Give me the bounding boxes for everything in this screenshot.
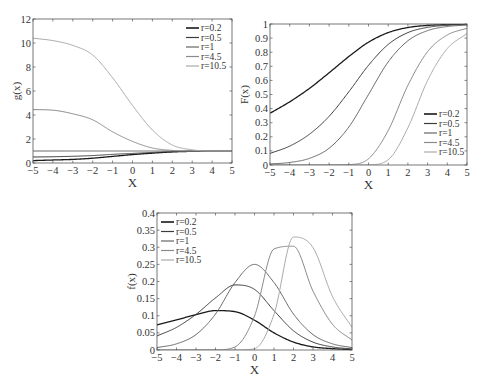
y-axis-label: g(x) <box>10 82 23 101</box>
y-tick-label: 0.4 <box>142 208 156 219</box>
legend-label: r=1 <box>176 236 190 246</box>
x-tick-label: 4 <box>209 165 215 176</box>
y-tick-label: 4 <box>26 110 32 121</box>
y-tick-label: 0.7 <box>255 61 268 72</box>
y-tick-label: 0.3 <box>255 117 268 128</box>
series-line-r-1 <box>157 264 352 347</box>
legend: r=0.2r=0.5r=1r=4.5r=10.5 <box>186 23 226 71</box>
y-tick-label: 0.4 <box>255 103 269 114</box>
x-tick-label: 1 <box>271 352 276 363</box>
legend-label: r=0.5 <box>201 33 222 43</box>
legend-label: r=10.5 <box>176 255 201 265</box>
legend-label: r=0.5 <box>176 227 197 237</box>
y-tick-label: 0.35 <box>137 225 155 236</box>
legend-label: r=10.5 <box>201 61 226 71</box>
series-line-r-10-5 <box>270 34 467 165</box>
legend-label: r=4.5 <box>201 52 222 62</box>
x-axis-label: X <box>128 175 138 190</box>
x-tick-label: 1 <box>150 165 155 176</box>
x-tick-label: −4 <box>47 165 59 176</box>
x-tick-label: −4 <box>284 167 296 178</box>
x-tick-label: 3 <box>190 165 195 176</box>
series-line-r-4-5 <box>270 28 467 165</box>
x-tick-label: −2 <box>87 165 98 176</box>
legend-label: r=4.5 <box>439 138 460 148</box>
legend-label: r=0.5 <box>439 119 460 129</box>
y-tick-label: 0.5 <box>255 89 268 100</box>
chart-F: −5−4−3−2−101234500.10.20.30.40.50.60.70.… <box>240 0 483 192</box>
legend-label: r=1 <box>439 128 453 138</box>
x-tick-label: −2 <box>210 352 221 363</box>
x-tick-label: −3 <box>304 167 315 178</box>
series-lines <box>270 24 467 165</box>
y-tick-label: 0.6 <box>255 75 268 86</box>
x-tick-label: 3 <box>310 352 315 363</box>
x-tick-label: −4 <box>171 352 183 363</box>
chart-F-svg: −5−4−3−2−101234500.10.20.30.40.50.60.70.… <box>240 0 483 192</box>
chart-f: −5−4−3−2−101234500.050.10.150.20.250.30.… <box>120 195 370 387</box>
y-tick-label: 10 <box>21 38 32 49</box>
x-tick-label: 5 <box>229 165 234 176</box>
y-axis-label: f(x) <box>125 273 138 290</box>
y-tick-label: 0.8 <box>255 47 268 58</box>
y-tick-label: 8 <box>26 62 31 73</box>
x-tick-label: 3 <box>425 167 430 178</box>
x-tick-label: −1 <box>229 352 240 363</box>
y-tick-label: 0.15 <box>137 293 155 304</box>
chart-g-svg: −5−4−3−2−1012345024681012Xg(x)r=0.2r=0.5… <box>0 0 240 192</box>
y-axis-label: F(x) <box>240 85 251 104</box>
x-tick-label: 2 <box>291 352 296 363</box>
legend-label: r=4.5 <box>176 246 197 256</box>
x-tick-label: −3 <box>190 352 201 363</box>
x-tick-label: −2 <box>324 167 335 178</box>
x-tick-label: 5 <box>464 167 469 178</box>
y-tick-label: 0 <box>26 158 31 169</box>
legend-label: r=0.2 <box>201 23 222 33</box>
y-tick-label: 0.25 <box>137 259 155 270</box>
x-axis-label: X <box>364 177 374 192</box>
series-line-r-1 <box>270 25 467 164</box>
x-axis-label: X <box>250 362 260 377</box>
x-tick-label: −1 <box>343 167 354 178</box>
y-tick-label: 0.1 <box>142 310 155 321</box>
y-tick-label: 0.3 <box>142 242 155 253</box>
chart-f-svg: −5−4−3−2−101234500.050.10.150.20.250.30.… <box>120 195 370 387</box>
legend-label: r=1 <box>201 42 215 52</box>
legend-label: r=0.2 <box>176 217 197 227</box>
x-tick-label: 4 <box>445 167 451 178</box>
x-tick-label: −3 <box>67 165 78 176</box>
legend: r=0.2r=0.5r=1r=4.5r=10.5 <box>161 217 201 265</box>
x-tick-label: 2 <box>405 167 410 178</box>
x-tick-label: 4 <box>330 352 336 363</box>
series-line-r-0-2 <box>270 24 467 113</box>
series-line-r-0-2 <box>33 151 232 161</box>
legend-label: r=10.5 <box>439 147 464 157</box>
legend-label: r=0.2 <box>439 109 460 119</box>
y-tick-label: 0.05 <box>137 327 155 338</box>
x-tick-label: 1 <box>386 167 391 178</box>
y-tick-label: 0 <box>150 345 155 356</box>
y-tick-label: 2 <box>26 134 31 145</box>
y-tick-label: 0 <box>263 160 268 171</box>
chart-g: −5−4−3−2−1012345024681012Xg(x)r=0.2r=0.5… <box>0 0 240 192</box>
y-tick-label: 1 <box>263 19 268 30</box>
y-tick-label: 0.2 <box>255 131 268 142</box>
x-tick-label: 5 <box>349 352 354 363</box>
series-line-r-0-5 <box>270 24 467 153</box>
series-line-r-4-5 <box>33 110 232 151</box>
y-tick-label: 12 <box>21 14 32 25</box>
y-tick-label: 0.9 <box>255 33 268 44</box>
y-tick-label: 0.2 <box>142 276 155 287</box>
x-tick-label: −1 <box>107 165 118 176</box>
y-tick-label: 6 <box>26 86 31 97</box>
y-tick-label: 0.1 <box>255 145 268 156</box>
x-tick-label: 2 <box>170 165 175 176</box>
legend: r=0.2r=0.5r=1r=4.5r=10.5 <box>424 109 464 157</box>
